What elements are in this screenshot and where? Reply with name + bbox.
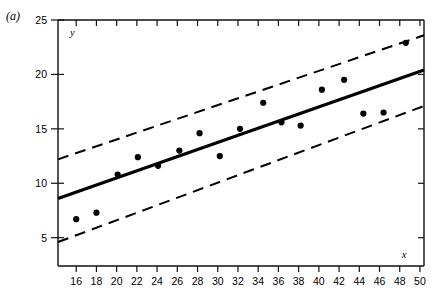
data-point	[360, 111, 366, 117]
y-axis-tick-labels: 510152025	[35, 14, 47, 244]
x-tick-label: 32	[232, 275, 244, 287]
data-point	[403, 40, 409, 46]
data-point	[298, 122, 304, 128]
x-tick-label: 48	[394, 275, 406, 287]
x-tick-label: 34	[252, 275, 264, 287]
data-point	[237, 126, 243, 132]
data-point	[278, 119, 284, 125]
plot-frame	[58, 20, 424, 266]
data-point	[93, 210, 99, 216]
x-tick-label: 28	[192, 275, 204, 287]
data-point	[260, 100, 266, 106]
x-tick-label: 50	[414, 275, 426, 287]
data-point	[196, 130, 202, 136]
figure-container: (a) 161820222426283032343638404244464850…	[0, 0, 436, 296]
y-tick-label: 25	[35, 14, 47, 26]
upper-confidence-band	[58, 35, 424, 159]
data-point	[115, 171, 121, 177]
x-tick-label: 38	[293, 275, 305, 287]
data-point	[217, 153, 223, 159]
data-point	[380, 109, 386, 115]
x-tick-label: 42	[333, 275, 345, 287]
data-point	[319, 87, 325, 93]
x-tick-label: 26	[171, 275, 183, 287]
data-point	[135, 154, 141, 160]
x-tick-label: 40	[313, 275, 325, 287]
y-axis-label: y	[69, 27, 75, 38]
regression-lines	[58, 35, 424, 242]
x-tick-label: 20	[111, 275, 123, 287]
x-axis-ticks	[76, 20, 420, 272]
scatter-plot: 161820222426283032343638404244464850 510…	[0, 0, 436, 296]
x-axis-tick-labels: 161820222426283032343638404244464850	[70, 275, 426, 287]
x-tick-label: 24	[151, 275, 163, 287]
x-tick-label: 36	[273, 275, 285, 287]
x-tick-label: 44	[353, 275, 365, 287]
data-point	[155, 163, 161, 169]
x-tick-label: 18	[91, 275, 103, 287]
data-points	[73, 40, 409, 223]
x-tick-label: 46	[374, 275, 386, 287]
y-tick-label: 10	[35, 177, 47, 189]
fitted-regression-line	[58, 70, 424, 198]
x-tick-label: 16	[70, 275, 82, 287]
y-tick-label: 20	[35, 68, 47, 80]
x-tick-label: 30	[212, 275, 224, 287]
data-point	[341, 77, 347, 83]
data-point	[73, 216, 79, 222]
y-tick-label: 15	[35, 123, 47, 135]
x-tick-label: 22	[131, 275, 143, 287]
y-tick-label: 5	[41, 232, 47, 244]
data-point	[176, 148, 182, 154]
x-axis-label: x	[401, 249, 407, 260]
